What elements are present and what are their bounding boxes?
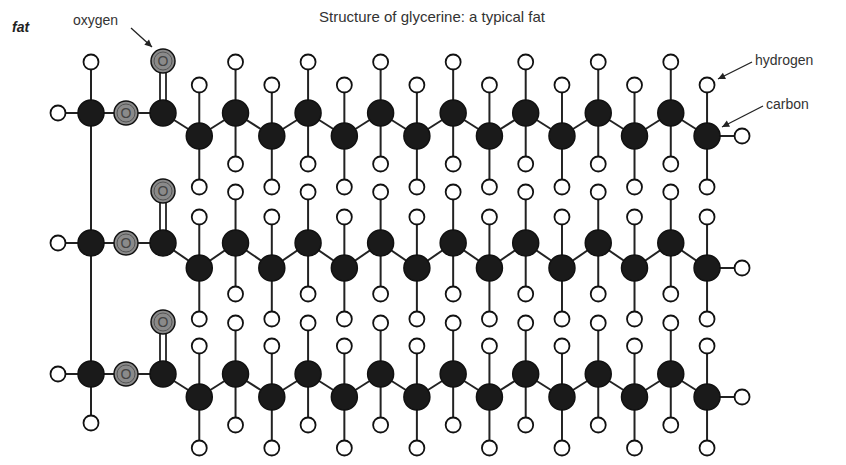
carbon-atom (658, 230, 684, 256)
oxygen-symbol: O (121, 105, 132, 121)
carbon-atom (78, 230, 104, 256)
hydrogen-atom (554, 180, 569, 195)
hydrogen-atom (591, 418, 606, 433)
hydrogen-atom (409, 441, 424, 456)
hydrogen-atom (228, 316, 243, 331)
hydrogen-atom (627, 312, 642, 327)
hydrogen-atom (192, 210, 207, 225)
hydrogen-atom (518, 185, 533, 200)
hydrogen-atom (301, 55, 316, 70)
carbon-atom (622, 384, 648, 410)
carbon-atom (259, 123, 285, 149)
carbon-atom (186, 384, 212, 410)
carbon-atom (513, 230, 539, 256)
hydrogen-atom (192, 180, 207, 195)
hydrogen-atom (301, 287, 316, 302)
hydrogen-atom (627, 441, 642, 456)
hydrogen-atom (51, 236, 66, 251)
carbon-atom (186, 123, 212, 149)
hydrogen-atom (446, 287, 461, 302)
hydrogen-atom (663, 418, 678, 433)
hydrogen-atom (337, 312, 352, 327)
carbon-atom (694, 255, 720, 281)
carbon-atom (585, 230, 611, 256)
carbon-atom (549, 384, 575, 410)
hydrogen-atom (373, 185, 388, 200)
carbon-atom (150, 361, 176, 387)
hydrogen-atom (228, 418, 243, 433)
hydrogen-atom (554, 78, 569, 93)
carbon-atom (368, 361, 394, 387)
hydrogen-atom (663, 287, 678, 302)
carbon-atom (440, 100, 466, 126)
hydrogen-atom (735, 261, 750, 276)
carbon-atom (513, 361, 539, 387)
hydrogen-atom (554, 339, 569, 354)
hydrogen-atom (192, 339, 207, 354)
hydrogen-atom (591, 287, 606, 302)
hydrogen-atom (446, 316, 461, 331)
hydrogen-atom (84, 416, 99, 431)
carbon-atom (331, 123, 357, 149)
hydrogen-atom (192, 441, 207, 456)
carbon-atom (78, 361, 104, 387)
carbon-atom (476, 384, 502, 410)
hydrogen-atom (409, 210, 424, 225)
carbon-atom (259, 255, 285, 281)
hydrogen-atom (591, 316, 606, 331)
carbon-atom (368, 230, 394, 256)
carbon-atom (513, 100, 539, 126)
carbon-atom (694, 123, 720, 149)
oxygen-symbol: O (121, 366, 132, 382)
hydrogen-atom (482, 210, 497, 225)
hydrogen-atom (301, 157, 316, 172)
oxygen-symbol: O (158, 183, 169, 199)
hydrogen-atom (337, 78, 352, 93)
carbon-atom (295, 230, 321, 256)
hydrogen-atom (409, 180, 424, 195)
carbon-atom (404, 255, 430, 281)
hydrogen-atom (700, 441, 715, 456)
hydrogen-atom (482, 78, 497, 93)
oxygen-symbol: O (158, 314, 169, 330)
hydrogen-atom (264, 339, 279, 354)
hydrogen-atom (700, 180, 715, 195)
hydrogen-atom (627, 78, 642, 93)
hydrogen-atom (554, 312, 569, 327)
carbon-atom (78, 100, 104, 126)
hydrogen-atom (518, 287, 533, 302)
hydrogen-atom (228, 55, 243, 70)
hydrogen-atom (373, 55, 388, 70)
hydrogen-atom (482, 339, 497, 354)
carbon-atom (223, 361, 249, 387)
hydrogen-atom (446, 185, 461, 200)
carbon-atom (658, 361, 684, 387)
hydrogen-atom (446, 55, 461, 70)
carbon-atom (622, 123, 648, 149)
hydrogen-atom (663, 55, 678, 70)
hydrogen-atom (337, 180, 352, 195)
hydrogen-atom (446, 418, 461, 433)
glycerine-structure-diagram: OOOOOO (0, 0, 846, 465)
hydrogen-atom (482, 180, 497, 195)
hydrogen-atom (373, 418, 388, 433)
carbon-atom (440, 361, 466, 387)
hydrogen-atom (554, 441, 569, 456)
carbon-atom (295, 361, 321, 387)
carbon-atom (549, 255, 575, 281)
hydrogen-atom (518, 316, 533, 331)
hydrogen-atom (518, 418, 533, 433)
hydrogen-atom (192, 78, 207, 93)
hydrogen-atom (627, 210, 642, 225)
hydrogen-atom (264, 312, 279, 327)
hydrogen-atom (337, 441, 352, 456)
hydrogen-atom (700, 78, 715, 93)
carbon-atom (622, 255, 648, 281)
hydrogen-atom (482, 441, 497, 456)
carbon-atom (223, 230, 249, 256)
carbon-atom (549, 123, 575, 149)
hydrogen-atom (554, 210, 569, 225)
carbon-atom (585, 361, 611, 387)
hydrogen-atom (192, 312, 207, 327)
carbon-atom (150, 230, 176, 256)
